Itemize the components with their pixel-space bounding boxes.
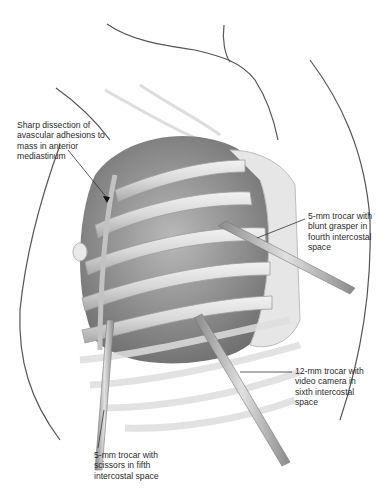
label-scissors-trocar: 5-mm trocar with scissors in fifth inter…: [94, 450, 159, 481]
label-camera-trocar: 12-mm trocar with video camera in sixth …: [295, 366, 364, 408]
label-grasper-trocar: 5-mm trocar with blunt grasper in fourth…: [308, 211, 372, 253]
nipple: [73, 243, 87, 261]
shoulder-shading: [105, 85, 220, 140]
label-sharp-dissection: Sharp dissection of avascular adhesions …: [17, 120, 105, 162]
surgical-illustration: Sharp dissection of avascular adhesions …: [0, 0, 386, 489]
